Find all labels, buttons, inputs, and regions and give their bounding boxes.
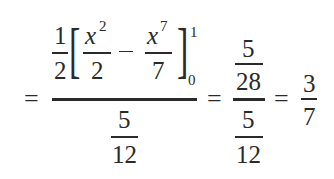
result-denominator: 7 xyxy=(303,104,316,129)
left-bracket: [ xyxy=(69,19,80,81)
denominator-numerator: 5 xyxy=(118,107,131,132)
term2-exponent: 7 xyxy=(160,18,168,35)
step2-bottom-fraction-bar xyxy=(235,136,263,138)
term1-denominator: 2 xyxy=(91,58,104,83)
right-bracket: ] xyxy=(177,19,188,81)
step2-top-denominator: 28 xyxy=(236,69,261,94)
term1-variable: x xyxy=(85,23,96,48)
lower-limit: 0 xyxy=(188,72,196,89)
term1-exponent: 2 xyxy=(99,18,107,35)
equals-sign-1: = xyxy=(24,86,39,112)
coef-numerator: 1 xyxy=(54,23,67,48)
denominator-fraction-bar xyxy=(111,136,138,138)
upper-limit: 1 xyxy=(190,24,198,41)
denominator-denominator: 12 xyxy=(112,142,137,167)
equals-sign-2: = xyxy=(207,86,222,112)
term1-fraction-bar xyxy=(83,52,111,54)
step2-bottom-numerator: 5 xyxy=(242,107,255,132)
step2-main-fraction-bar xyxy=(233,98,265,101)
term2-denominator: 7 xyxy=(152,58,165,83)
step2-top-fraction-bar xyxy=(235,63,263,65)
result-numerator: 3 xyxy=(303,71,316,96)
term2-fraction-bar xyxy=(145,52,172,54)
equals-sign-3: = xyxy=(274,86,289,112)
main-fraction-bar xyxy=(52,98,197,101)
coef-fraction-bar xyxy=(52,52,68,54)
step2-bottom-denominator: 12 xyxy=(236,142,261,167)
coef-denominator: 2 xyxy=(54,58,67,83)
minus-sign xyxy=(119,51,133,52)
step2-top-numerator: 5 xyxy=(242,36,255,61)
result-fraction-bar xyxy=(301,98,317,100)
term2-variable: x xyxy=(147,23,158,48)
